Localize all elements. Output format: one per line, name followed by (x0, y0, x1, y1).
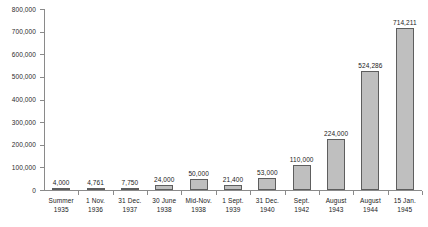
x-axis-category-label: 30 June1938 (147, 197, 181, 214)
x-axis-category-line: 1 Sept. (216, 197, 250, 206)
bar (293, 165, 311, 190)
x-axis-category-label: August1944 (353, 197, 387, 214)
y-axis-tick-label: 0 (0, 187, 36, 194)
x-axis-category-line: Summer (44, 197, 78, 206)
bar (327, 139, 345, 190)
x-axis-category-label: Mid-Nov.1938 (181, 197, 215, 214)
bar (361, 71, 379, 190)
x-axis-category-label: 1 Sept.1939 (216, 197, 250, 214)
x-axis-category-line: Mid-Nov. (181, 197, 215, 206)
x-axis-category-line: Sept. (285, 197, 319, 206)
x-axis-category-line: 1 Nov. (78, 197, 112, 206)
y-axis-tick-label: 100,000 (0, 164, 36, 171)
plot-area (44, 9, 422, 190)
x-axis-category-line: 30 June (147, 197, 181, 206)
x-axis-tick (285, 191, 286, 195)
x-axis-category-line: 15 Jan. (388, 197, 422, 206)
x-axis-category-line: 1937 (113, 206, 147, 215)
bar-value-label: 714,211 (377, 19, 428, 26)
bar-chart: 800,000700,000600,000500,000400,000300,0… (0, 0, 428, 227)
x-axis-category-line: 1936 (78, 206, 112, 215)
x-axis-category-line: 1938 (147, 206, 181, 215)
x-axis-tick (353, 191, 354, 195)
x-axis-tick (113, 191, 114, 195)
bar (396, 28, 414, 190)
x-axis-category-label: 1 Nov.1936 (78, 197, 112, 214)
x-axis-category-line: 1939 (216, 206, 250, 215)
x-axis-category-label: 15 Jan.1945 (388, 197, 422, 214)
x-axis-category-line: August (353, 197, 387, 206)
x-axis-category-line: 31 Dec. (113, 197, 147, 206)
x-axis-tick (216, 191, 217, 195)
y-axis-tick-label: 400,000 (0, 96, 36, 103)
y-axis-tick-label: 600,000 (0, 51, 36, 58)
y-axis-tick-label: 700,000 (0, 28, 36, 35)
x-axis-category-label: Sept.1942 (285, 197, 319, 214)
bar (52, 188, 70, 190)
x-axis-category-line: 1943 (319, 206, 353, 215)
y-axis-tick (40, 190, 44, 191)
y-axis-tick-label: 200,000 (0, 141, 36, 148)
x-axis-category-line: 1944 (353, 206, 387, 215)
x-axis-line (44, 190, 422, 191)
bar (121, 188, 139, 190)
bar (258, 178, 276, 190)
bar-value-label: 224,000 (308, 130, 364, 137)
x-axis-category-line: 1942 (285, 206, 319, 215)
bar (87, 188, 105, 190)
bar-value-label: 21,400 (205, 176, 261, 183)
y-axis-tick-label: 800,000 (0, 6, 36, 13)
x-axis-category-label: 31 Dec.1937 (113, 197, 147, 214)
bar-value-label: 110,000 (274, 156, 330, 163)
x-axis-tick (147, 191, 148, 195)
x-axis-category-line: 31 Dec. (250, 197, 284, 206)
x-axis-category-label: 31 Dec.1940 (250, 197, 284, 214)
x-axis-tick (388, 191, 389, 195)
x-axis-category-line: 1938 (181, 206, 215, 215)
x-axis-category-line: 1935 (44, 206, 78, 215)
x-axis-tick (78, 191, 79, 195)
y-axis-tick-label: 500,000 (0, 73, 36, 80)
y-axis-tick-label: 300,000 (0, 119, 36, 126)
x-axis-category-line: 1945 (388, 206, 422, 215)
x-axis-category-line: 1940 (250, 206, 284, 215)
bar-value-label: 53,000 (239, 169, 295, 176)
x-axis-tick (181, 191, 182, 195)
bar (224, 185, 242, 190)
x-axis-tick (250, 191, 251, 195)
x-axis-tick (422, 191, 423, 195)
bar (155, 185, 173, 190)
x-axis-category-label: August1943 (319, 197, 353, 214)
x-axis-category-line: August (319, 197, 353, 206)
bar-value-label: 524,286 (342, 62, 398, 69)
x-axis-category-label: Summer1935 (44, 197, 78, 214)
x-axis-tick (319, 191, 320, 195)
